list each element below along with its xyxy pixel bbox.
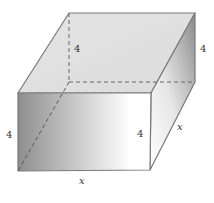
label-left-front-height: 4 (6, 129, 12, 140)
label-right-back-height: 4 (200, 43, 206, 54)
label-front-right-height: 4 (137, 128, 143, 139)
label-front-width: x (79, 175, 85, 186)
box-diagram: 4 4 4 4 x x (0, 0, 214, 203)
label-back-height: 4 (74, 43, 80, 54)
front-face (18, 93, 151, 171)
label-depth: x (177, 121, 183, 132)
